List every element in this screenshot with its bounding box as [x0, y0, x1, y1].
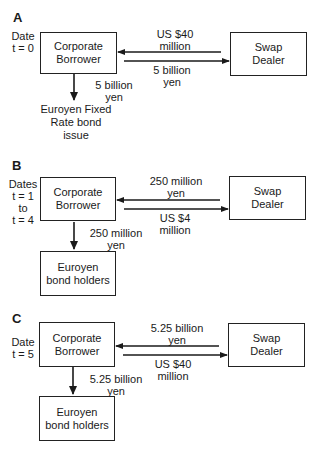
flow-text: Euroyen Fixed [37, 103, 115, 116]
flow-text: yen [137, 76, 207, 88]
flow-text: 5 billion [84, 79, 144, 91]
box-text: Euroyen [58, 261, 99, 274]
corporate-borrower-box-c: Corporate Borrower [39, 322, 115, 367]
date-line: t = 1 [6, 190, 40, 202]
panel-b-label: B [12, 159, 21, 172]
flow-text: 5.25 billion [78, 373, 154, 385]
swap-dealer-box-b: Swap Dealer [229, 176, 306, 220]
box-text: Swap [253, 332, 281, 345]
panel-c-date: Date t = 5 [9, 336, 37, 360]
flow-label-c-to-borrower: 5.25 billion yen [137, 322, 217, 346]
flow-label-b-down: 250 million yen [80, 227, 152, 251]
box-text: Borrower [56, 53, 101, 66]
box-text: Corporate [54, 186, 103, 199]
panel-a-date: Date t = 0 [8, 30, 38, 54]
panel-a-label: A [13, 11, 22, 24]
flow-text: Rate bond [37, 116, 115, 129]
flow-text: 5 billion [137, 64, 207, 76]
box-text: Corporate [53, 332, 102, 345]
flow-text: 5.25 billion [137, 322, 217, 334]
flow-text: yen [84, 91, 144, 103]
euroyen-bondholders-box-b: Euroyen bond holders [40, 251, 116, 296]
corporate-borrower-box-b: Corporate Borrower [40, 177, 116, 221]
date-line: Date [8, 30, 38, 42]
flow-text: yen [80, 239, 152, 251]
panel-b-dates: Dates t = 1 to t = 4 [6, 178, 40, 226]
swap-dealer-box-c: Swap Dealer [228, 323, 305, 367]
flow-label-c-down: 5.25 billion yen [78, 373, 154, 397]
euroyen-bond-issue-label: Euroyen Fixed Rate bond issue [37, 103, 115, 142]
date-line: to [6, 202, 40, 214]
date-line: Date [9, 336, 37, 348]
flow-text: yen [136, 187, 216, 199]
date-line: t = 5 [9, 348, 37, 360]
flow-text: issue [37, 129, 115, 142]
flow-label-a-to-dealer: 5 billion yen [137, 64, 207, 88]
date-line: Dates [6, 178, 40, 190]
flow-label-b-to-borrower: 250 million yen [136, 175, 216, 199]
box-text: Corporate [54, 40, 103, 53]
flow-text: yen [137, 334, 217, 346]
euroyen-bondholders-box-c: Euroyen bond holders [39, 396, 115, 441]
box-text: bond holders [46, 274, 110, 287]
date-line: t = 4 [6, 214, 40, 226]
date-line: t = 0 [8, 42, 38, 54]
corporate-borrower-box-a: Corporate Borrower [40, 32, 117, 74]
box-text: Borrower [56, 199, 101, 212]
panel-c-label: C [12, 312, 21, 325]
box-text: bond holders [45, 419, 109, 432]
flow-label-a-down: 5 billion yen [84, 79, 144, 103]
flow-label-a-to-borrower: US $40 million [140, 28, 210, 52]
box-text: Swap [254, 185, 282, 198]
swap-dealer-box-a: Swap Dealer [230, 32, 307, 76]
flow-text: million [140, 40, 210, 52]
box-text: Euroyen [57, 406, 98, 419]
box-text: Borrower [55, 345, 100, 358]
flow-text: 250 million [136, 175, 216, 187]
box-text: Dealer [252, 54, 284, 67]
box-text: Swap [255, 41, 283, 54]
flow-text: US $4 [140, 212, 210, 224]
flow-text: US $40 [138, 358, 208, 370]
flow-text: US $40 [140, 28, 210, 40]
box-text: Dealer [251, 198, 283, 211]
flow-text: 250 million [80, 227, 152, 239]
box-text: Dealer [250, 345, 282, 358]
